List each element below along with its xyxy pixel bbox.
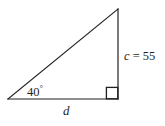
vertical-leg-label: c = 55: [124, 50, 155, 63]
degree-symbol-icon: °: [40, 83, 44, 93]
right-angle-square-icon: [106, 87, 117, 98]
triangle-hypotenuse-side: [8, 9, 118, 99]
base-side-label: d: [63, 104, 70, 117]
angle-value-text: 40: [27, 85, 40, 99]
vertical-leg-equals-text: = 55: [130, 49, 156, 63]
angle-label: 40°: [27, 84, 43, 99]
triangle-drawing: [0, 0, 165, 126]
right-triangle-figure: 40° c = 55 d: [0, 0, 165, 126]
